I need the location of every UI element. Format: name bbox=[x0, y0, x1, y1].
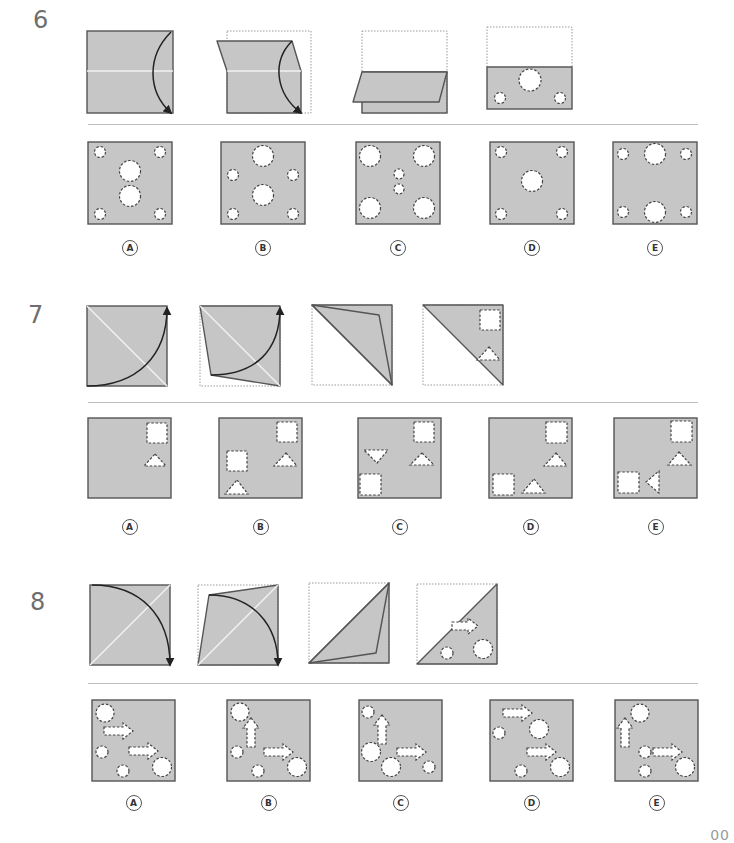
punched-hole-circle bbox=[228, 170, 239, 181]
punched-hole-circle bbox=[496, 209, 507, 220]
punched-hole-circle bbox=[360, 198, 381, 219]
punched-hole-circle bbox=[155, 209, 166, 220]
q7-option-label-c[interactable]: C bbox=[392, 519, 408, 535]
q8-option-label-b[interactable]: B bbox=[261, 795, 277, 811]
q6-option-label-b[interactable]: B bbox=[255, 240, 271, 256]
punched-hole-square bbox=[493, 474, 514, 495]
punched-hole-circle bbox=[519, 69, 541, 91]
punched-hole-circle bbox=[555, 93, 566, 104]
punched-hole-square bbox=[360, 474, 381, 495]
original-outline bbox=[487, 27, 572, 67]
punched-hole-circle bbox=[441, 647, 453, 659]
punched-hole-circle bbox=[96, 704, 114, 722]
q6-answer-option-e[interactable] bbox=[611, 140, 699, 226]
q8-answer-option-d[interactable] bbox=[488, 698, 575, 783]
punched-hole-circle bbox=[645, 144, 666, 165]
punched-hole-circle bbox=[288, 170, 299, 181]
punched-hole-square bbox=[147, 423, 167, 443]
punched-hole-square bbox=[414, 422, 434, 442]
punched-hole-circle bbox=[681, 207, 692, 218]
q8-option-label-e[interactable]: E bbox=[649, 795, 665, 811]
q7-answer-option-b[interactable] bbox=[217, 416, 304, 500]
q6-answer-option-d[interactable] bbox=[488, 140, 576, 226]
q6-answer-option-a[interactable] bbox=[86, 140, 174, 226]
punched-hole-circle bbox=[557, 209, 568, 220]
punched-hole-square bbox=[227, 451, 247, 471]
page-number: 00 bbox=[710, 827, 730, 843]
q7-option-label-b[interactable]: B bbox=[253, 519, 269, 535]
punched-hole-circle bbox=[362, 706, 374, 718]
punched-hole-circle bbox=[382, 758, 401, 777]
punched-hole-circle bbox=[231, 703, 249, 721]
q6-fold-step-3 bbox=[351, 29, 449, 115]
punched-hole-circle bbox=[394, 184, 404, 194]
punched-hole-circle bbox=[515, 765, 527, 777]
q6-option-label-a[interactable]: A bbox=[122, 240, 138, 256]
q7-answer-option-a[interactable] bbox=[86, 416, 173, 500]
q7-answer-option-d[interactable] bbox=[487, 416, 574, 500]
q6-option-label-c[interactable]: C bbox=[390, 240, 406, 256]
q8-answer-option-c[interactable] bbox=[357, 698, 444, 783]
q8-answer-option-b[interactable] bbox=[225, 698, 312, 783]
folded-paper bbox=[217, 41, 301, 113]
folded-paper bbox=[353, 72, 447, 102]
punched-hole-circle bbox=[495, 93, 506, 104]
punched-hole-circle bbox=[618, 207, 629, 218]
question-number-8: 8 bbox=[30, 590, 45, 614]
q6-option-label-e[interactable]: E bbox=[647, 240, 663, 256]
q8-fold-step-3 bbox=[307, 581, 391, 665]
q6-answer-option-b[interactable] bbox=[219, 140, 307, 226]
punched-hole-circle bbox=[288, 758, 307, 777]
q8-option-label-d[interactable]: D bbox=[524, 795, 540, 811]
punched-hole-square bbox=[671, 421, 692, 442]
punched-hole-circle bbox=[360, 146, 381, 167]
punched-hole-circle bbox=[95, 209, 106, 220]
punched-hole-circle bbox=[228, 209, 239, 220]
q6-option-label-d[interactable]: D bbox=[524, 240, 540, 256]
punched-hole-circle bbox=[120, 186, 141, 207]
section-divider bbox=[88, 124, 698, 125]
q8-answer-option-e[interactable] bbox=[613, 698, 700, 783]
punched-hole-square bbox=[480, 310, 500, 330]
q7-answer-option-c[interactable] bbox=[356, 416, 443, 500]
punched-hole-circle bbox=[414, 198, 435, 219]
punched-hole-circle bbox=[618, 149, 629, 160]
q7-fold-step-3 bbox=[310, 303, 394, 387]
q7-answer-option-e[interactable] bbox=[612, 416, 699, 500]
q7-option-label-a[interactable]: A bbox=[122, 519, 138, 535]
punched-hole-circle bbox=[153, 758, 172, 777]
punched-hole-circle bbox=[394, 169, 404, 179]
q7-fold-step-4 bbox=[421, 303, 505, 387]
punched-hole-circle bbox=[557, 147, 568, 158]
punched-hole-circle bbox=[631, 704, 649, 722]
punched-hole-circle bbox=[288, 209, 299, 220]
punched-hole-circle bbox=[414, 146, 435, 167]
q6-fold-step-1 bbox=[85, 29, 175, 115]
question-number-7: 7 bbox=[28, 303, 43, 327]
punched-hole-circle bbox=[231, 746, 243, 758]
punched-hole-circle bbox=[681, 149, 692, 160]
punched-hole-square bbox=[618, 472, 639, 493]
punched-hole-circle bbox=[474, 640, 493, 659]
q7-fold-step-1 bbox=[85, 304, 169, 388]
punched-hole-circle bbox=[155, 147, 166, 158]
q8-fold-step-1 bbox=[88, 583, 172, 667]
punched-hole-circle bbox=[423, 761, 435, 773]
punched-hole-square bbox=[277, 422, 297, 442]
q7-fold-step-2 bbox=[198, 304, 282, 388]
q8-answer-option-a[interactable] bbox=[90, 698, 177, 783]
punched-hole-circle bbox=[639, 746, 651, 758]
q8-fold-step-4 bbox=[415, 582, 499, 666]
q8-option-label-c[interactable]: C bbox=[393, 795, 409, 811]
punched-hole-circle bbox=[551, 758, 570, 777]
q8-option-label-a[interactable]: A bbox=[126, 795, 142, 811]
punched-hole-circle bbox=[120, 161, 141, 182]
punched-hole-circle bbox=[645, 202, 666, 223]
punched-hole-circle bbox=[493, 727, 505, 739]
q6-answer-option-c[interactable] bbox=[354, 140, 442, 226]
q7-option-label-e[interactable]: E bbox=[648, 519, 664, 535]
question-number-6: 6 bbox=[33, 8, 48, 32]
q7-option-label-d[interactable]: D bbox=[523, 519, 539, 535]
q8-fold-step-2 bbox=[196, 583, 280, 667]
section-divider bbox=[88, 402, 698, 403]
